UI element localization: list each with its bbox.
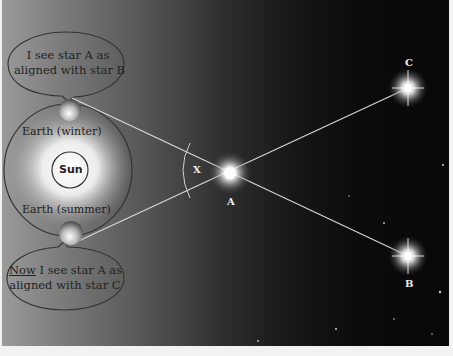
bottom-bubble-line2: aligned with star C [9,278,121,293]
earth-summer-label: Earth (summer) [22,203,111,216]
angle-x-label: X [193,164,201,175]
bottom-bubble-text: Now I see star A as aligned with star C [9,263,121,293]
bottom-bubble-line1: I see star A as [36,263,122,277]
bottom-bubble-emphasis: Now [9,263,36,277]
earth-winter [59,99,81,121]
earth-winter-label: Earth (winter) [22,125,102,138]
star-b-label: B [405,278,413,289]
star-a-label: A [227,196,235,207]
parallax-diagram: I see star A as aligned with star B Now … [0,0,453,356]
star-c-label: C [405,57,413,68]
top-bubble-line1: I see star A as [14,48,122,63]
top-bubble-line2: aligned with star B [14,63,122,78]
sun-label: Sun [59,163,83,176]
top-bubble-text: I see star A as aligned with star B [14,48,122,78]
earth-summer [59,221,83,245]
